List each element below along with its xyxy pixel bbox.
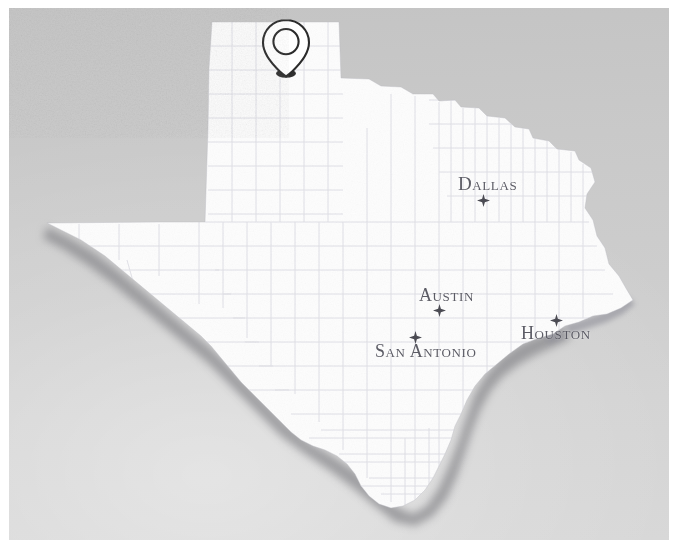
city-label-dallas: Dallas bbox=[458, 174, 517, 193]
city-label-austin: Austin bbox=[419, 286, 474, 304]
map-figure: Dallas Austin San Antonio Houston bbox=[0, 0, 678, 548]
texas-map-graphic bbox=[9, 8, 669, 540]
map-pin-icon[interactable] bbox=[255, 16, 317, 84]
city-star-austin bbox=[433, 304, 446, 317]
texas-state-shape bbox=[47, 22, 633, 508]
city-star-dallas bbox=[477, 194, 490, 207]
city-label-houston: Houston bbox=[521, 324, 591, 342]
scanned-photo-area: Dallas Austin San Antonio Houston bbox=[9, 8, 669, 540]
city-label-san-antonio: San Antonio bbox=[375, 342, 476, 360]
